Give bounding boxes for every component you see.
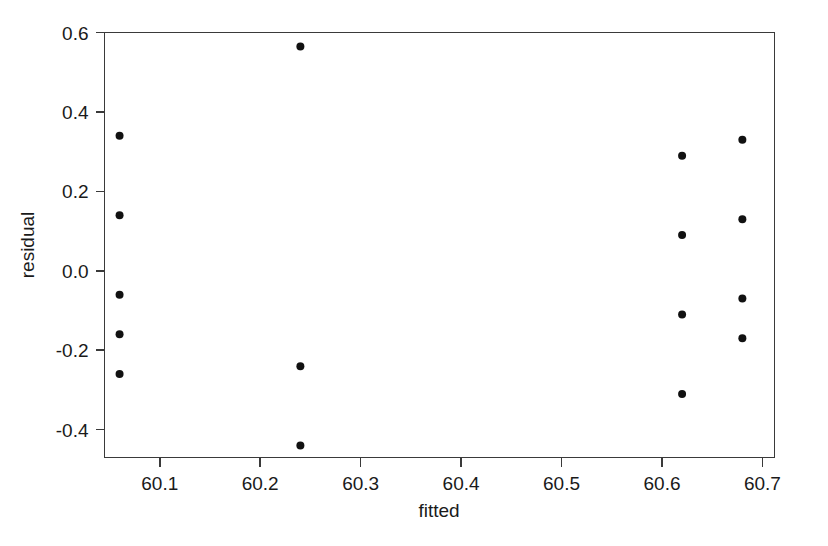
scatter-plot-figure: 60.160.260.360.460.560.660.7 -0.4-0.20.0… <box>0 0 828 546</box>
y-axis-title: residual <box>17 212 38 279</box>
x-tick-label: 60.2 <box>242 473 279 494</box>
data-point <box>738 334 746 342</box>
y-tick-label: 0.4 <box>62 102 89 123</box>
x-axis-title: fitted <box>418 500 459 521</box>
x-tick-label: 60.1 <box>141 473 178 494</box>
x-tick-label: 60.5 <box>543 473 580 494</box>
y-tick-label: 0.0 <box>62 261 88 282</box>
data-point <box>738 295 746 303</box>
y-tick-label: 0.2 <box>62 181 88 202</box>
data-point <box>678 311 686 319</box>
y-axis-ticks: -0.4-0.20.00.20.40.6 <box>56 23 105 441</box>
y-tick-label: -0.2 <box>56 340 89 361</box>
data-point <box>116 211 124 219</box>
y-tick-label: -0.4 <box>56 420 89 441</box>
data-point <box>116 330 124 338</box>
x-axis-ticks: 60.160.260.360.460.560.660.7 <box>141 458 781 494</box>
x-tick-label: 60.7 <box>744 473 781 494</box>
plot-canvas: 60.160.260.360.460.560.660.7 -0.4-0.20.0… <box>0 0 828 546</box>
data-point <box>116 291 124 299</box>
data-point <box>116 132 124 140</box>
x-tick-label: 60.6 <box>644 473 681 494</box>
data-point <box>116 370 124 378</box>
data-point <box>678 231 686 239</box>
data-point <box>296 442 304 450</box>
x-tick-label: 60.3 <box>342 473 379 494</box>
data-point <box>738 215 746 223</box>
data-point <box>296 42 304 50</box>
data-points-layer <box>116 42 747 449</box>
data-point <box>678 390 686 398</box>
y-tick-label: 0.6 <box>62 23 88 44</box>
x-tick-label: 60.4 <box>443 473 480 494</box>
data-point <box>738 136 746 144</box>
data-point <box>678 152 686 160</box>
data-point <box>296 362 304 370</box>
plot-frame <box>105 33 775 458</box>
